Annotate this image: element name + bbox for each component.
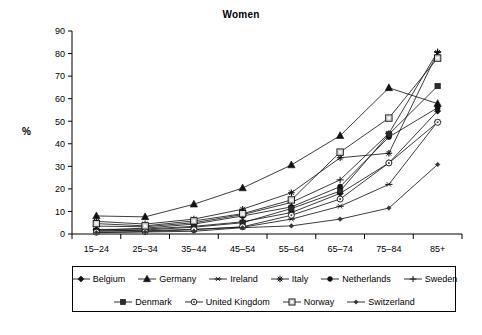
legend-label: Switzerland <box>368 297 415 307</box>
legend-item-sweden[interactable]: Sweden <box>403 274 458 284</box>
y-tick-label: 30 <box>55 162 65 172</box>
x-tick-label: 15–24 <box>84 244 109 254</box>
filled-triangle-icon <box>137 274 157 284</box>
filled-circle-icon <box>320 274 340 284</box>
chart-figure: Women % 010203040506070809015–2425–3435–… <box>0 0 482 335</box>
plus-icon <box>403 274 423 284</box>
x-tick-label: 35–44 <box>181 244 206 254</box>
legend-label: United Kingdom <box>206 297 270 307</box>
legend-item-germany[interactable]: Germany <box>137 274 196 284</box>
legend-row-2: DenmarkUnited KingdomNorwaySwitzerland <box>73 290 455 313</box>
filled-diamond-icon <box>71 274 91 284</box>
filled-square-icon <box>113 297 133 307</box>
x-tick-label: 25–34 <box>133 244 158 254</box>
y-tick-label: 70 <box>55 71 65 81</box>
star-icon <box>270 274 290 284</box>
y-tick-label: 90 <box>55 26 65 36</box>
legend-item-denmark[interactable]: Denmark <box>113 297 172 307</box>
y-tick-label: 0 <box>60 229 65 239</box>
legend-label: Denmark <box>135 297 172 307</box>
legend-item-italy[interactable]: Italy <box>270 274 309 284</box>
series-norway <box>93 55 441 229</box>
y-tick-label: 60 <box>55 94 65 104</box>
x-tick-label: 55–64 <box>279 244 304 254</box>
x-tick-label: 45–54 <box>230 244 255 254</box>
legend-item-netherlands[interactable]: Netherlands <box>320 274 391 284</box>
legend-label: Italy <box>292 274 309 284</box>
legend-item-belgium[interactable]: Belgium <box>71 274 126 284</box>
legend-label: Ireland <box>230 274 258 284</box>
legend-label: Norway <box>304 297 335 307</box>
legend-item-norway[interactable]: Norway <box>282 297 335 307</box>
small-diamond-icon <box>346 297 366 307</box>
y-tick-label: 80 <box>55 49 65 59</box>
y-tick-label: 10 <box>55 207 65 217</box>
legend-label: Germany <box>159 274 196 284</box>
y-tick-label: 20 <box>55 184 65 194</box>
x-tick-label: 85+ <box>430 244 445 254</box>
legend-label: Sweden <box>425 274 458 284</box>
x-tick-label: 65–74 <box>328 244 353 254</box>
legend-row-1: BelgiumGermanyIrelandItalyNetherlandsSwe… <box>73 267 455 290</box>
legend-label: Netherlands <box>342 274 391 284</box>
y-tick-label: 50 <box>55 117 65 127</box>
y-tick-label: 40 <box>55 139 65 149</box>
asterisk-icon <box>208 274 228 284</box>
chart-legend: BelgiumGermanyIrelandItalyNetherlandsSwe… <box>72 266 456 312</box>
open-square-icon <box>282 297 302 307</box>
open-circle-icon <box>184 297 204 307</box>
legend-item-ireland[interactable]: Ireland <box>208 274 258 284</box>
legend-item-united-kingdom[interactable]: United Kingdom <box>184 297 270 307</box>
legend-item-switzerland[interactable]: Switzerland <box>346 297 415 307</box>
legend-label: Belgium <box>93 274 126 284</box>
x-tick-label: 75–84 <box>376 244 401 254</box>
